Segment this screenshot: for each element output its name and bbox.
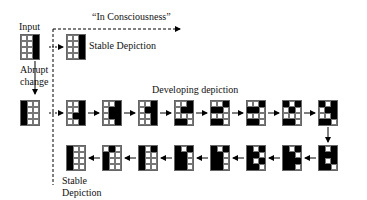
connectors <box>0 0 367 200</box>
